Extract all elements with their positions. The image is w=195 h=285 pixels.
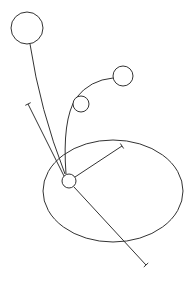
whisker-upper-right — [75, 143, 124, 177]
tether-right-node — [65, 78, 113, 174]
diagram-canvas — [0, 0, 195, 285]
error-ellipse — [43, 140, 183, 242]
hub-node — [62, 174, 76, 188]
right-node — [113, 66, 133, 86]
whisker-lower-right — [74, 187, 148, 267]
small-node — [73, 96, 89, 112]
top-left-node — [11, 12, 43, 44]
tether-top-node — [30, 44, 65, 174]
end-cap — [120, 143, 123, 148]
